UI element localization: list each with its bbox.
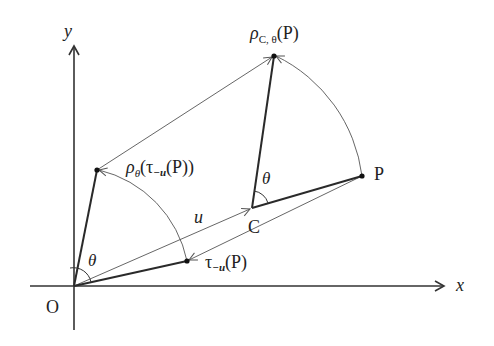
- label-C: C: [248, 218, 260, 236]
- rho-theta-subscript: θ: [135, 167, 140, 179]
- x-axis-label: x: [456, 276, 464, 294]
- point-rho-C-P: [271, 53, 276, 58]
- tau-open: (τ: [140, 157, 153, 177]
- translate-back-arrow: [97, 57, 272, 170]
- rho-symbol: ρ: [250, 23, 259, 43]
- label-P: P: [374, 165, 384, 183]
- rho-theta-symbol: ρ: [126, 157, 135, 177]
- vector-u-label: u: [194, 208, 203, 226]
- angle-label-origin: θ: [88, 252, 96, 269]
- origin-label: O: [46, 298, 59, 316]
- label-tau-P: τ−u(P): [205, 253, 247, 271]
- angle-label-C: θ: [262, 170, 270, 187]
- tau-subscript: −u: [212, 261, 225, 273]
- point-P: [359, 173, 364, 178]
- rho-subscript-text: C, θ: [259, 33, 277, 45]
- rho-argument: (P): [277, 23, 299, 43]
- vector-u-arrow: [74, 209, 250, 286]
- y-axis-label: y: [64, 22, 72, 40]
- angle-arc-C: [254, 191, 268, 203]
- rotation-arc-origin: [99, 170, 187, 261]
- tau-argument: (P): [225, 252, 247, 272]
- rho-tau-argument: (P)): [166, 157, 194, 177]
- label-rho-tau-P: ρθ(τ−u(P)): [126, 158, 194, 176]
- label-rho-C-P: ρC, θ(P): [250, 24, 299, 42]
- rotation-diagram: [0, 0, 494, 346]
- rho-subscript: C, θ: [259, 33, 277, 45]
- point-rho-tau-P: [94, 167, 99, 172]
- point-tau-P: [184, 258, 189, 263]
- translate-P-arrow: [189, 176, 362, 260]
- rotation-arc-C: [276, 56, 362, 176]
- tau-inner-subscript: −u: [153, 166, 166, 178]
